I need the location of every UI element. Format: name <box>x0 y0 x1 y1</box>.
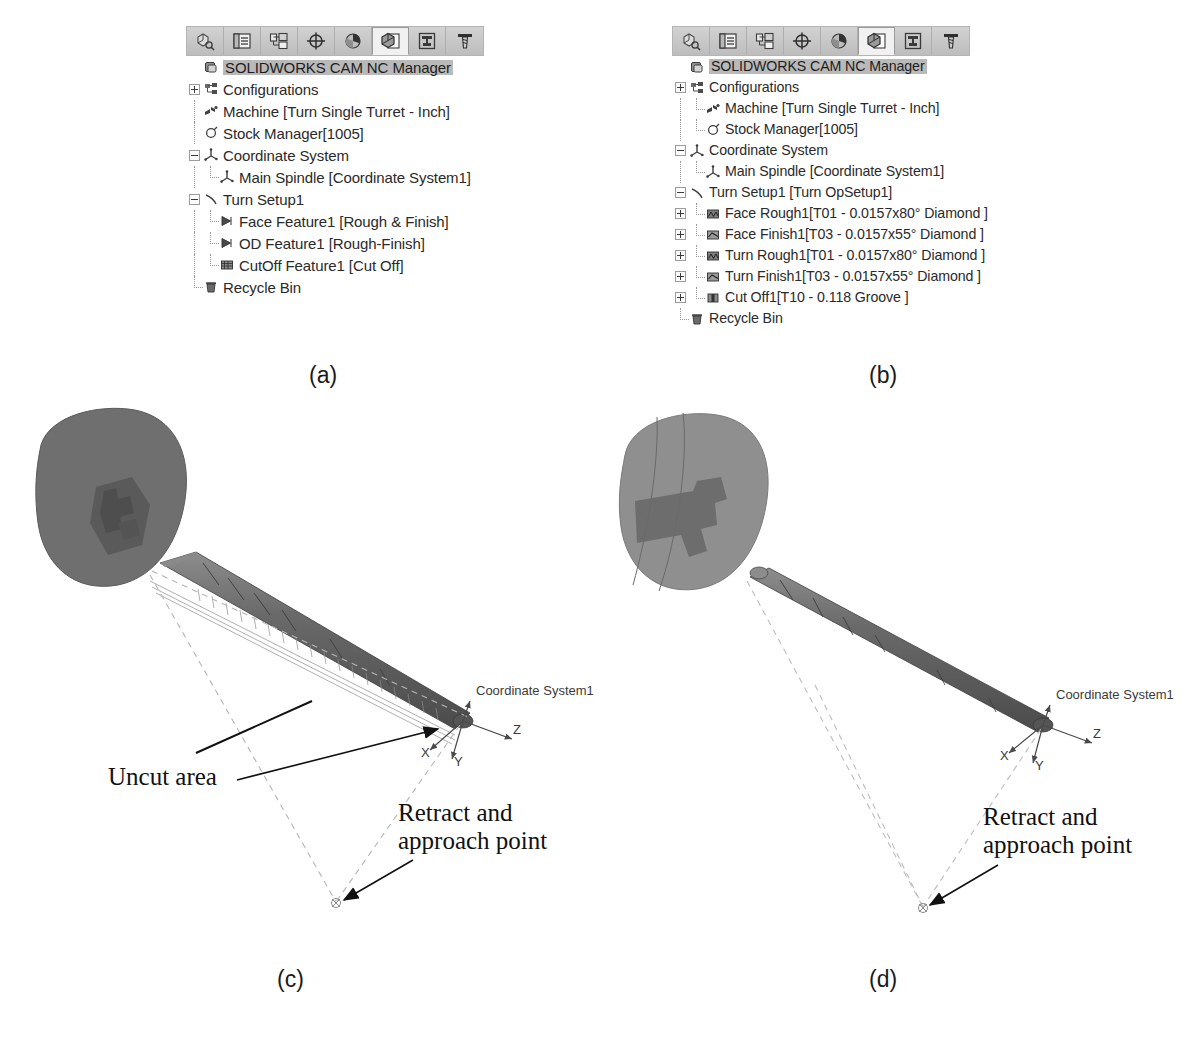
expand-toggle[interactable] <box>675 229 686 240</box>
collapse-toggle[interactable] <box>189 194 200 205</box>
tree-line <box>194 232 195 254</box>
tree-indent <box>688 266 704 288</box>
expand-toggle[interactable] <box>675 292 686 303</box>
cam-nc-manager-panel-a: SOLIDWORKS CAM NC Manager Configurations… <box>186 26 484 298</box>
tree-line <box>194 254 195 276</box>
turn-setup-icon <box>688 184 706 202</box>
machine-icon <box>704 100 722 118</box>
tree-row[interactable]: Face Feature1 [Rough & Finish] <box>186 210 471 232</box>
dimxpert-manager-icon[interactable] <box>298 27 335 55</box>
tree-line <box>696 203 705 215</box>
tree-row[interactable]: Face Finish1[T03 - 0.0157x55° Diamond ] <box>672 224 988 245</box>
tree-row[interactable]: Main Spindle [Coordinate System1] <box>672 161 988 182</box>
display-manager-icon[interactable] <box>335 27 372 55</box>
tree-row[interactable]: Turn Setup1 [Turn OpSetup1] <box>672 182 988 203</box>
tree-row[interactable]: Turn Finish1[T03 - 0.0157x55° Diamond ] <box>672 266 988 287</box>
tree-row[interactable]: Turn Rough1[T01 - 0.0157x80° Diamond ] <box>672 245 988 266</box>
configuration-manager-icon[interactable] <box>261 27 298 55</box>
property-manager-icon[interactable] <box>224 27 261 55</box>
cam-tool-tree-icon[interactable] <box>446 27 483 55</box>
tree-row[interactable]: Face Rough1[T01 - 0.0157x80° Diamond ] <box>672 203 988 224</box>
tree-header-label: SOLIDWORKS CAM NC Manager <box>223 60 453 75</box>
tree-row-label: Turn Setup1 [Turn OpSetup1] <box>709 185 892 199</box>
dimxpert-manager-icon[interactable] <box>784 27 821 55</box>
leader-retract-point-d <box>930 865 998 905</box>
tree-row[interactable]: Configurations <box>186 78 471 100</box>
tree-indent <box>688 224 704 246</box>
tree-row-label: Turn Setup1 <box>223 192 304 207</box>
tree-header-a[interactable]: SOLIDWORKS CAM NC Manager <box>186 56 471 78</box>
configuration-manager-icon[interactable] <box>747 27 784 55</box>
leader-arrow-into-part-c <box>237 729 438 780</box>
property-manager-icon[interactable] <box>710 27 747 55</box>
tree-gutter <box>186 78 202 100</box>
expand-toggle[interactable] <box>675 271 686 282</box>
cam-feature-tree-icon[interactable] <box>858 27 895 55</box>
tree-row[interactable]: Turn Setup1 <box>186 188 471 210</box>
cam-tree-b[interactable]: SOLIDWORKS CAM NC Manager Configurations… <box>672 56 988 329</box>
tree-row-label: Recycle Bin <box>709 311 783 325</box>
tree-row[interactable]: Recycle Bin <box>672 308 988 329</box>
tree-row[interactable]: Configurations <box>672 77 988 98</box>
cam-operation-tree-icon[interactable] <box>895 27 932 55</box>
od-feature-icon <box>218 234 236 252</box>
tree-row[interactable]: Recycle Bin <box>186 276 471 298</box>
tree-line <box>696 224 705 236</box>
configurations-icon <box>202 80 220 98</box>
manager-tab-toolbar-b[interactable] <box>672 26 970 56</box>
manager-tab-toolbar-a[interactable] <box>186 26 484 56</box>
feature-manager-design-tree-icon[interactable] <box>673 27 710 55</box>
tree-gutter <box>672 266 688 288</box>
expand-toggle[interactable] <box>675 208 686 219</box>
feature-manager-design-tree-icon[interactable] <box>187 27 224 55</box>
tree-row[interactable]: CutOff Feature1 [Cut Off] <box>186 254 471 276</box>
viewport-d: Coordinate System1 X Y Z Retract and app… <box>597 395 1194 960</box>
tree-indent <box>688 161 704 183</box>
expand-toggle[interactable] <box>675 250 686 261</box>
subfigure-caption-c: (c) <box>277 966 304 993</box>
tree-indent <box>688 287 704 309</box>
tree-row-label: Turn Rough1[T01 - 0.0157x80° Diamond ] <box>725 248 985 262</box>
axis-label-z-c: Z <box>513 722 521 737</box>
tree-row-label: Turn Finish1[T03 - 0.0157x55° Diamond ] <box>725 269 981 283</box>
annotation-retract-approach-c: Retract and approach point <box>398 799 547 855</box>
tree-gutter <box>672 245 688 267</box>
display-manager-icon[interactable] <box>821 27 858 55</box>
tree-row-label: Main Spindle [Coordinate System1] <box>725 164 944 178</box>
nc-manager-icon <box>688 58 706 76</box>
tree-row[interactable]: Cut Off1[T10 - 0.118 Groove ] <box>672 287 988 308</box>
tree-row[interactable]: Coordinate System <box>672 140 988 161</box>
cam-operation-tree-icon[interactable] <box>409 27 446 55</box>
cutoff-feature-icon <box>218 256 236 274</box>
coordinate-system-icon <box>688 142 706 160</box>
tree-indent <box>202 254 218 276</box>
collapse-toggle[interactable] <box>189 150 200 161</box>
tree-header-b[interactable]: SOLIDWORKS CAM NC Manager <box>672 56 988 77</box>
recycle-bin-icon <box>688 310 706 328</box>
tree-row[interactable]: Stock Manager[1005] <box>186 122 471 144</box>
tree-gutter <box>186 56 202 78</box>
collapse-toggle[interactable] <box>675 145 686 156</box>
tree-row[interactable]: Machine [Turn Single Turret - Inch] <box>672 98 988 119</box>
stock-manager-icon <box>202 124 220 142</box>
tree-row-label: Machine [Turn Single Turret - Inch] <box>223 104 450 119</box>
machine-icon <box>202 102 220 120</box>
cam-tree-a[interactable]: SOLIDWORKS CAM NC Manager Configurations… <box>186 56 471 298</box>
cam-tool-tree-icon[interactable] <box>932 27 969 55</box>
tree-row[interactable]: Coordinate System <box>186 144 471 166</box>
tree-indent <box>688 203 704 225</box>
collapse-toggle[interactable] <box>675 187 686 198</box>
annotation-retract-approach-line-2: approach point <box>983 831 1132 859</box>
tree-row[interactable]: Machine [Turn Single Turret - Inch] <box>186 100 471 122</box>
cam-feature-tree-icon[interactable] <box>372 27 409 55</box>
tree-row[interactable]: OD Feature1 [Rough-Finish] <box>186 232 471 254</box>
leader-uncut-area-c <box>196 701 312 753</box>
tree-gutter <box>672 119 688 141</box>
expand-toggle[interactable] <box>189 84 200 95</box>
turned-part-c <box>160 552 473 729</box>
tree-line <box>680 98 681 120</box>
tree-row[interactable]: Main Spindle [Coordinate System1] <box>186 166 471 188</box>
tree-row[interactable]: Stock Manager[1005] <box>672 119 988 140</box>
leader-retract-point-c <box>344 860 413 900</box>
expand-toggle[interactable] <box>675 82 686 93</box>
